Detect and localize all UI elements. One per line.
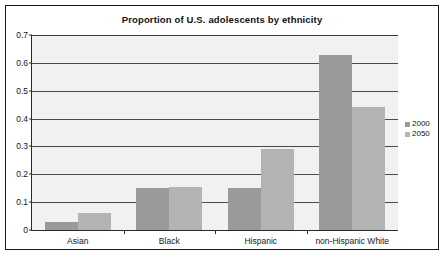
legend-item-2050[interactable]: 2050 — [405, 129, 439, 139]
bar-2000-asian — [45, 222, 78, 230]
bar-group: non-Hispanic White — [307, 35, 399, 230]
x-category-label: Black — [124, 236, 216, 246]
x-tick-mark — [215, 230, 216, 234]
y-tick-label: 0.5 — [16, 86, 28, 96]
bar-group: Asian — [32, 35, 124, 230]
legend-label: 2000 — [412, 119, 430, 129]
bar-2000-black — [136, 188, 169, 230]
y-tick-label: 0.4 — [16, 114, 28, 124]
bar-2000-hispanic — [228, 188, 261, 230]
legend-swatch-icon — [405, 132, 410, 137]
bar-2050-black — [169, 187, 202, 230]
legend-item-2000[interactable]: 2000 — [405, 119, 439, 129]
y-tick-label: 0 — [23, 225, 28, 235]
chart-figure: Proportion of U.S. adolescents by ethnic… — [5, 5, 439, 250]
y-tick-label: 0.3 — [16, 141, 28, 151]
bar-2050-hispanic — [261, 149, 294, 230]
y-tick-label: 0.6 — [16, 58, 28, 68]
legend-label: 2050 — [412, 129, 430, 139]
y-tick-label: 0.1 — [16, 197, 28, 207]
x-tick-mark — [124, 230, 125, 234]
x-category-label: Hispanic — [215, 236, 307, 246]
legend-swatch-icon — [405, 122, 410, 127]
x-category-label: Asian — [32, 236, 124, 246]
x-category-label: non-Hispanic White — [307, 236, 399, 246]
chart-legend: 20002050 — [405, 119, 439, 139]
plot-area: 00.10.20.30.40.50.60.7 AsianBlackHispani… — [31, 35, 398, 231]
bar-2000-non-hispanic-white — [319, 55, 352, 231]
y-tick-label: 0.7 — [16, 30, 28, 40]
bar-group: Black — [124, 35, 216, 230]
bar-2050-asian — [78, 213, 111, 230]
chart-title: Proportion of U.S. adolescents by ethnic… — [6, 14, 438, 25]
bar-group: Hispanic — [215, 35, 307, 230]
bar-2050-non-hispanic-white — [352, 107, 385, 230]
y-tick-label: 0.2 — [16, 169, 28, 179]
x-tick-mark — [307, 230, 308, 234]
